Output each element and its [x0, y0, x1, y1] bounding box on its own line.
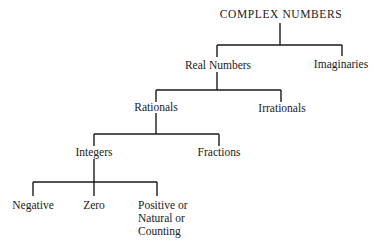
node-integers: Integers: [75, 146, 112, 159]
node-irrationals: Irrationals: [258, 102, 305, 115]
node-rationals: Rationals: [134, 101, 177, 114]
tree-connectors: [0, 0, 377, 246]
node-fractions: Fractions: [198, 146, 241, 159]
node-positive-natural-counting: Positive or Natural or Counting: [138, 199, 188, 238]
node-imaginaries: Imaginaries: [314, 58, 368, 71]
node-negative: Negative: [12, 199, 54, 212]
node-zero: Zero: [83, 199, 105, 212]
node-real-numbers: Real Numbers: [185, 59, 251, 72]
node-complex-numbers: COMPLEX NUMBERS: [220, 8, 342, 21]
